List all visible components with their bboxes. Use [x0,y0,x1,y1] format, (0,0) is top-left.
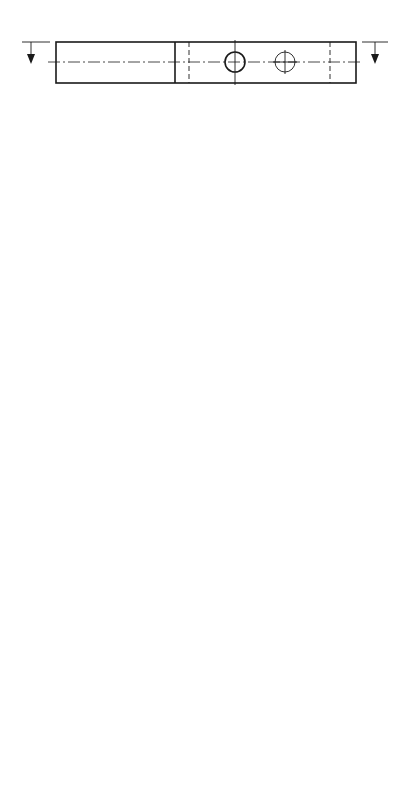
section-arrow-icon [371,54,379,64]
side-view-outline [56,42,356,83]
technical-drawing [0,0,411,807]
section-arrow-icon [27,54,35,64]
side-view [22,40,388,85]
